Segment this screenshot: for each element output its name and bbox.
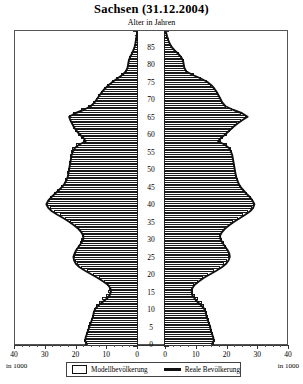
x-tick-major (137, 345, 138, 349)
x-tick-major (196, 345, 197, 349)
x-tick-minor (37, 345, 38, 347)
age-tick-label: 50 (137, 166, 165, 174)
x-tick-minor (22, 345, 23, 347)
x-tick-major (288, 345, 289, 349)
x-tick-minor (52, 345, 53, 347)
x-tick-major (165, 345, 166, 349)
x-tick-label: 10 (192, 350, 200, 359)
x-tick-minor (99, 345, 100, 347)
x-tick-minor (211, 345, 212, 347)
x-tick-minor (129, 345, 130, 347)
legend-item-model: Modellbevölkerung (67, 365, 148, 374)
x-tick-minor (122, 345, 123, 347)
x-tick-minor (273, 345, 274, 347)
x-tick-minor (188, 345, 189, 347)
x-tick-minor (60, 345, 61, 347)
chart-title: Sachsen (31.12.2004) (0, 2, 303, 17)
panel-female (164, 31, 287, 344)
unit-label-right: in 1000 (278, 362, 299, 370)
age-tick-label: 5 (137, 324, 165, 332)
x-tick-minor (29, 345, 30, 347)
x-tick-minor (265, 345, 266, 347)
x-tick-minor (91, 345, 92, 347)
chart-legend: Modellbevölkerung Reale Bevölkerung (66, 362, 241, 377)
age-tick-label: 45 (137, 184, 165, 192)
x-tick-minor (114, 345, 115, 347)
age-tick-label: 65 (137, 114, 165, 122)
x-axis-line (14, 345, 288, 346)
x-tick-minor (234, 345, 235, 347)
legend-label-model: Modellbevölkerung (91, 366, 148, 374)
x-tick-label: 20 (72, 350, 80, 359)
age-tick-label: 20 (137, 271, 165, 279)
age-tick-label: 40 (137, 201, 165, 209)
x-tick-label: 40 (10, 350, 18, 359)
age-tick-label: 10 (137, 306, 165, 314)
panel-male (15, 31, 138, 344)
x-tick-label: 0 (163, 350, 167, 359)
legend-box-icon (72, 365, 87, 374)
age-tick-label: 60 (137, 131, 165, 139)
x-tick-major (227, 345, 228, 349)
age-tick-label: 15 (137, 289, 165, 297)
real-population-line (15, 31, 138, 346)
age-tick-label: 80 (137, 61, 165, 69)
x-tick-label: 0 (135, 350, 139, 359)
x-tick-minor (280, 345, 281, 347)
age-tick-label: 25 (137, 254, 165, 262)
age-axis-labels: 0510152025303540455055606570758085 (137, 30, 165, 345)
legend-label-real: Reale Bevölkerung (185, 366, 240, 374)
x-tick-major (14, 345, 15, 349)
age-tick-label: 55 (137, 149, 165, 157)
x-tick-minor (180, 345, 181, 347)
x-tick-label: 40 (284, 350, 292, 359)
unit-label-left: in 1000 (6, 362, 27, 370)
age-tick-label: 35 (137, 219, 165, 227)
x-tick-minor (219, 345, 220, 347)
age-tick-label: 30 (137, 236, 165, 244)
real-population-line (164, 31, 287, 346)
x-tick-major (45, 345, 46, 349)
legend-line-icon (164, 368, 181, 371)
x-tick-major (76, 345, 77, 349)
x-tick-minor (173, 345, 174, 347)
x-tick-minor (68, 345, 69, 347)
x-tick-minor (250, 345, 251, 347)
x-tick-minor (83, 345, 84, 347)
x-tick-label: 30 (41, 350, 49, 359)
x-tick-label: 30 (254, 350, 262, 359)
x-tick-major (257, 345, 258, 349)
legend-item-real: Reale Bevölkerung (148, 366, 240, 374)
x-tick-label: 20 (223, 350, 231, 359)
x-tick-label: 10 (103, 350, 111, 359)
x-tick-major (106, 345, 107, 349)
age-tick-label: 75 (137, 79, 165, 87)
age-tick-label: 70 (137, 96, 165, 104)
x-tick-minor (242, 345, 243, 347)
age-tick-label: 85 (137, 44, 165, 52)
chart-subtitle: Alter in Jahren (0, 18, 303, 27)
x-tick-minor (203, 345, 204, 347)
population-pyramid-figure: Sachsen (31.12.2004) Alter in Jahren 051… (0, 0, 303, 384)
